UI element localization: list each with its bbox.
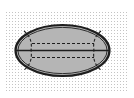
ellipsoid-cross-section-diagram [0, 0, 134, 98]
diagram-canvas [0, 0, 134, 98]
